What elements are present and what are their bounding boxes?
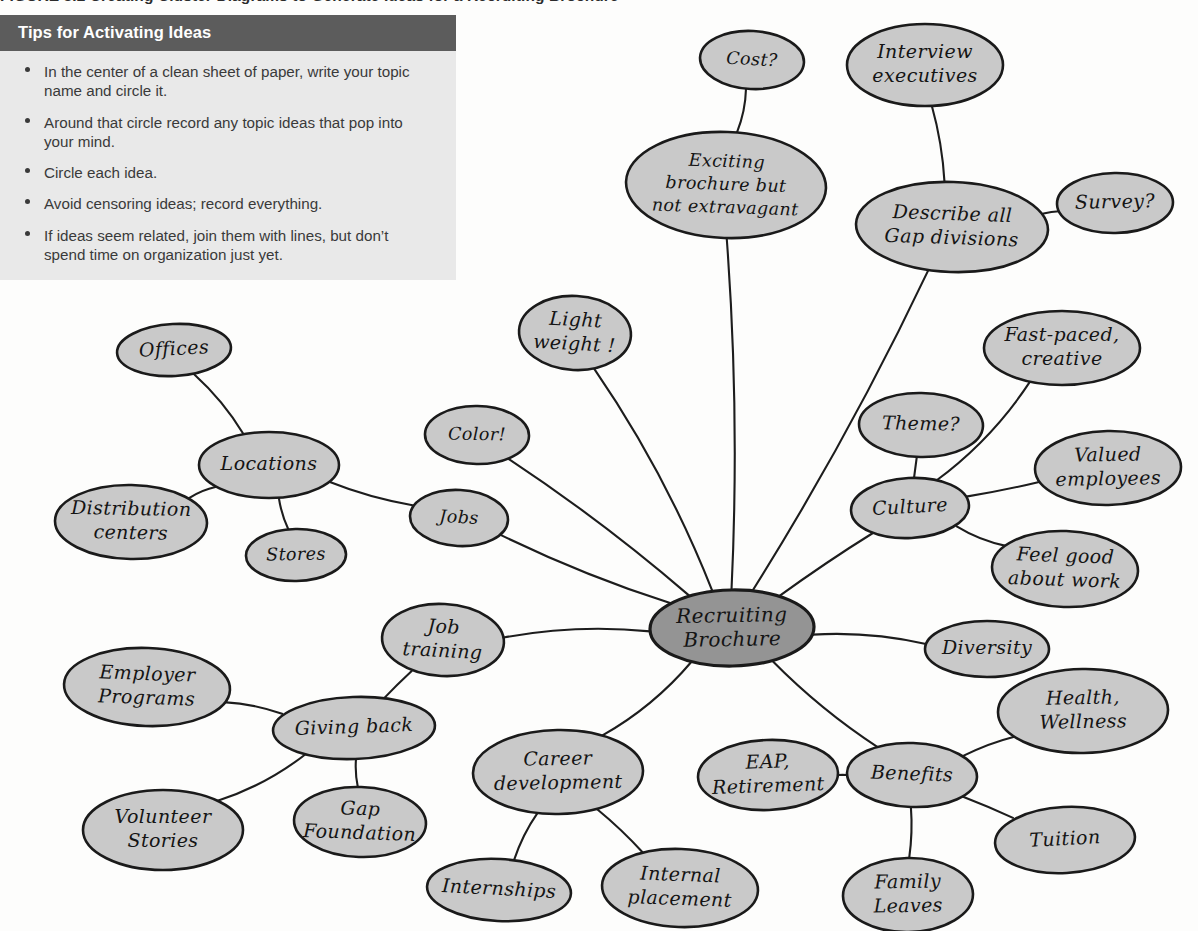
- connector-line: [909, 807, 911, 858]
- idea-node[interactable]: Valuedemployees: [1034, 430, 1181, 507]
- node-label: RecruitingBrochure: [675, 602, 788, 652]
- center-node[interactable]: RecruitingBrochure: [649, 589, 814, 668]
- connector-line: [961, 796, 1013, 818]
- tips-list-item-label: Circle each idea.: [44, 164, 157, 181]
- idea-node[interactable]: Stores: [246, 528, 347, 582]
- idea-node[interactable]: Internalplacement: [601, 846, 760, 929]
- idea-node[interactable]: Health,Wellness: [997, 668, 1168, 755]
- connector-line: [597, 809, 644, 853]
- node-label: Theme?: [882, 411, 961, 434]
- connector-line: [813, 634, 926, 644]
- connector-line: [779, 532, 875, 597]
- connector-line: [914, 457, 917, 478]
- connector-line: [189, 487, 216, 498]
- connector-line: [218, 753, 307, 801]
- connector-line: [773, 661, 879, 748]
- connector-line: [504, 629, 651, 638]
- tips-list: In the center of a clean sheet of paper,…: [0, 51, 456, 280]
- idea-node[interactable]: Jobs: [409, 487, 510, 548]
- connector-line: [964, 736, 1016, 755]
- idea-node[interactable]: Culture: [850, 475, 971, 541]
- bullet-icon: [25, 231, 30, 236]
- connector-line: [932, 106, 945, 182]
- idea-node[interactable]: Feel goodabout work: [991, 528, 1140, 609]
- bullet-icon: [25, 199, 30, 204]
- connector-line: [499, 534, 670, 603]
- tips-list-item-label: Avoid censoring ideas; record everything…: [44, 195, 322, 212]
- node-label: Offices: [138, 335, 209, 361]
- node-label: Tuition: [1029, 825, 1101, 851]
- idea-node[interactable]: Jobtraining: [380, 601, 506, 679]
- tips-box: Tips for Activating Ideas In the center …: [0, 15, 456, 280]
- tips-list-item: Around that circle record any topic idea…: [18, 113, 434, 152]
- connector-line: [957, 526, 1007, 546]
- idea-node[interactable]: Locations: [199, 432, 339, 498]
- idea-node[interactable]: EAP,Retirement: [697, 738, 839, 813]
- idea-node[interactable]: GapFoundation: [293, 785, 427, 860]
- idea-node[interactable]: FamilyLeaves: [842, 857, 973, 931]
- connector-line: [383, 671, 412, 699]
- idea-node[interactable]: Color!: [425, 405, 530, 465]
- node-label: Locations: [220, 452, 318, 474]
- tips-list-item-label: Around that circle record any topic idea…: [44, 114, 403, 150]
- idea-node[interactable]: Survey?: [1056, 172, 1173, 234]
- idea-node[interactable]: Internships: [425, 855, 572, 924]
- node-label: Cost?: [726, 47, 779, 70]
- idea-node[interactable]: EmployerPrograms: [63, 645, 232, 729]
- tips-box-title: Tips for Activating Ideas: [0, 15, 456, 51]
- idea-node[interactable]: Careerdevelopment: [472, 729, 643, 816]
- node-label: Jobs: [436, 505, 479, 527]
- idea-node[interactable]: Describe allGap divisions: [854, 179, 1049, 276]
- node-label: Diversity: [941, 636, 1032, 658]
- tips-list-item: Circle each idea.: [18, 163, 434, 182]
- idea-node[interactable]: Cost?: [699, 28, 806, 91]
- idea-node[interactable]: Fast-paced,creative: [984, 311, 1140, 385]
- connector-line: [514, 813, 537, 860]
- idea-node[interactable]: Lightweight !: [517, 293, 633, 373]
- connector-line: [194, 374, 244, 434]
- tips-list-item: In the center of a clean sheet of paper,…: [18, 62, 434, 101]
- idea-node[interactable]: Excitingbrochure butnot extravagant: [624, 129, 828, 242]
- connector-line: [356, 759, 358, 787]
- tips-list-item-label: If ideas seem related, join them with li…: [44, 227, 388, 263]
- connector-line: [737, 89, 746, 133]
- idea-node[interactable]: Benefits: [846, 741, 978, 809]
- idea-node[interactable]: VolunteerStories: [83, 790, 243, 870]
- bullet-icon: [25, 118, 30, 123]
- tips-list-item: Avoid censoring ideas; record everything…: [18, 194, 434, 213]
- node-label: Color!: [448, 423, 506, 444]
- node-label: Benefits: [870, 761, 954, 786]
- node-label: Survey?: [1075, 189, 1156, 212]
- node-label: Giving back: [294, 713, 413, 739]
- connector-line: [224, 702, 283, 714]
- bullet-icon: [25, 168, 30, 173]
- connector-line: [727, 238, 735, 590]
- connector-line: [279, 498, 289, 530]
- idea-node[interactable]: Theme?: [858, 392, 983, 458]
- connector-line: [329, 482, 415, 506]
- tips-list-item: If ideas seem related, join them with li…: [18, 226, 434, 265]
- node-label: Culture: [871, 493, 948, 519]
- connector-line: [965, 482, 1040, 497]
- idea-node[interactable]: Diversity: [925, 621, 1049, 677]
- idea-node[interactable]: Offices: [116, 321, 233, 379]
- idea-node[interactable]: Interviewexecutives: [847, 24, 1003, 106]
- idea-node[interactable]: Distributioncenters: [54, 484, 207, 561]
- idea-node[interactable]: Tuition: [993, 803, 1136, 876]
- node-label: Stores: [266, 543, 326, 564]
- connector-line: [1044, 211, 1060, 213]
- bullet-icon: [25, 67, 30, 72]
- idea-node[interactable]: Giving back: [272, 694, 436, 762]
- tips-list-item-label: In the center of a clean sheet of paper,…: [44, 63, 410, 99]
- connector-line: [602, 661, 692, 736]
- connector-line: [594, 368, 713, 591]
